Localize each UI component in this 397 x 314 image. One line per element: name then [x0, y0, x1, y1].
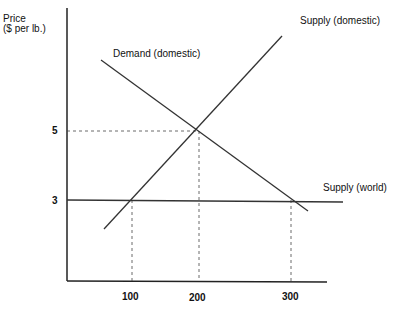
y-tick-5: 5 [52, 125, 58, 136]
supply-world-line [67, 200, 343, 202]
y-tick-3: 3 [52, 195, 58, 206]
demand-domestic-label: Demand (domestic) [113, 48, 200, 59]
y-axis-label-line2: ($ per lb.) [3, 23, 46, 34]
x-tick-100: 100 [122, 291, 139, 302]
x-tick-300: 300 [282, 291, 299, 302]
x-tick-200: 200 [189, 292, 206, 303]
supply-domestic-line [104, 36, 282, 229]
supply-world-label: Supply (world) [323, 182, 387, 193]
x-axis [67, 281, 327, 282]
supply-domestic-label: Supply (domestic) [300, 15, 380, 26]
demand-domestic-line [101, 60, 308, 211]
